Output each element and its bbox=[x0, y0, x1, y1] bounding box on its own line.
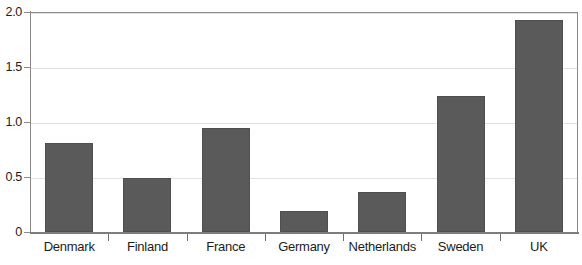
x-axis-tick bbox=[108, 234, 109, 241]
x-axis-label-netherlands: Netherlands bbox=[349, 239, 416, 254]
bar-chart: 00.51.01.52.0 DenmarkFinlandFranceGerman… bbox=[0, 0, 582, 265]
bar[interactable] bbox=[515, 20, 563, 232]
bar-slot bbox=[421, 12, 499, 232]
bar-slot bbox=[30, 12, 108, 232]
x-axis-tick bbox=[187, 234, 188, 241]
y-axis-label: 1.5 bbox=[0, 60, 22, 74]
x-axis-label-uk: UK bbox=[530, 239, 548, 254]
x-axis-line bbox=[30, 232, 579, 234]
y-axis-label: 1.0 bbox=[0, 115, 22, 129]
bar[interactable] bbox=[45, 143, 93, 232]
x-axis-tick bbox=[500, 234, 501, 241]
y-axis-label: 0.5 bbox=[0, 170, 22, 184]
x-axis-tick bbox=[343, 234, 344, 241]
bar[interactable] bbox=[437, 96, 485, 232]
x-axis-label-sweden: Sweden bbox=[438, 239, 483, 254]
bar[interactable] bbox=[280, 211, 328, 232]
x-axis-tick bbox=[421, 234, 422, 241]
bar[interactable] bbox=[358, 192, 406, 232]
bar-slot bbox=[500, 12, 578, 232]
bar-slot bbox=[187, 12, 265, 232]
y-axis-label: 0 bbox=[0, 225, 22, 239]
y-axis-tick bbox=[24, 232, 30, 233]
x-axis-tick bbox=[265, 234, 266, 241]
y-axis-label: 2.0 bbox=[0, 5, 22, 19]
x-axis-label-france: France bbox=[206, 239, 245, 254]
x-axis-label-denmark: Denmark bbox=[44, 239, 95, 254]
bar-slot bbox=[265, 12, 343, 232]
x-axis-label-germany: Germany bbox=[278, 239, 330, 254]
x-axis-label-finland: Finland bbox=[127, 239, 168, 254]
bar[interactable] bbox=[202, 128, 250, 233]
bar-slot bbox=[108, 12, 186, 232]
bar-slot bbox=[343, 12, 421, 232]
bar[interactable] bbox=[123, 178, 171, 232]
bars-layer bbox=[30, 12, 578, 232]
